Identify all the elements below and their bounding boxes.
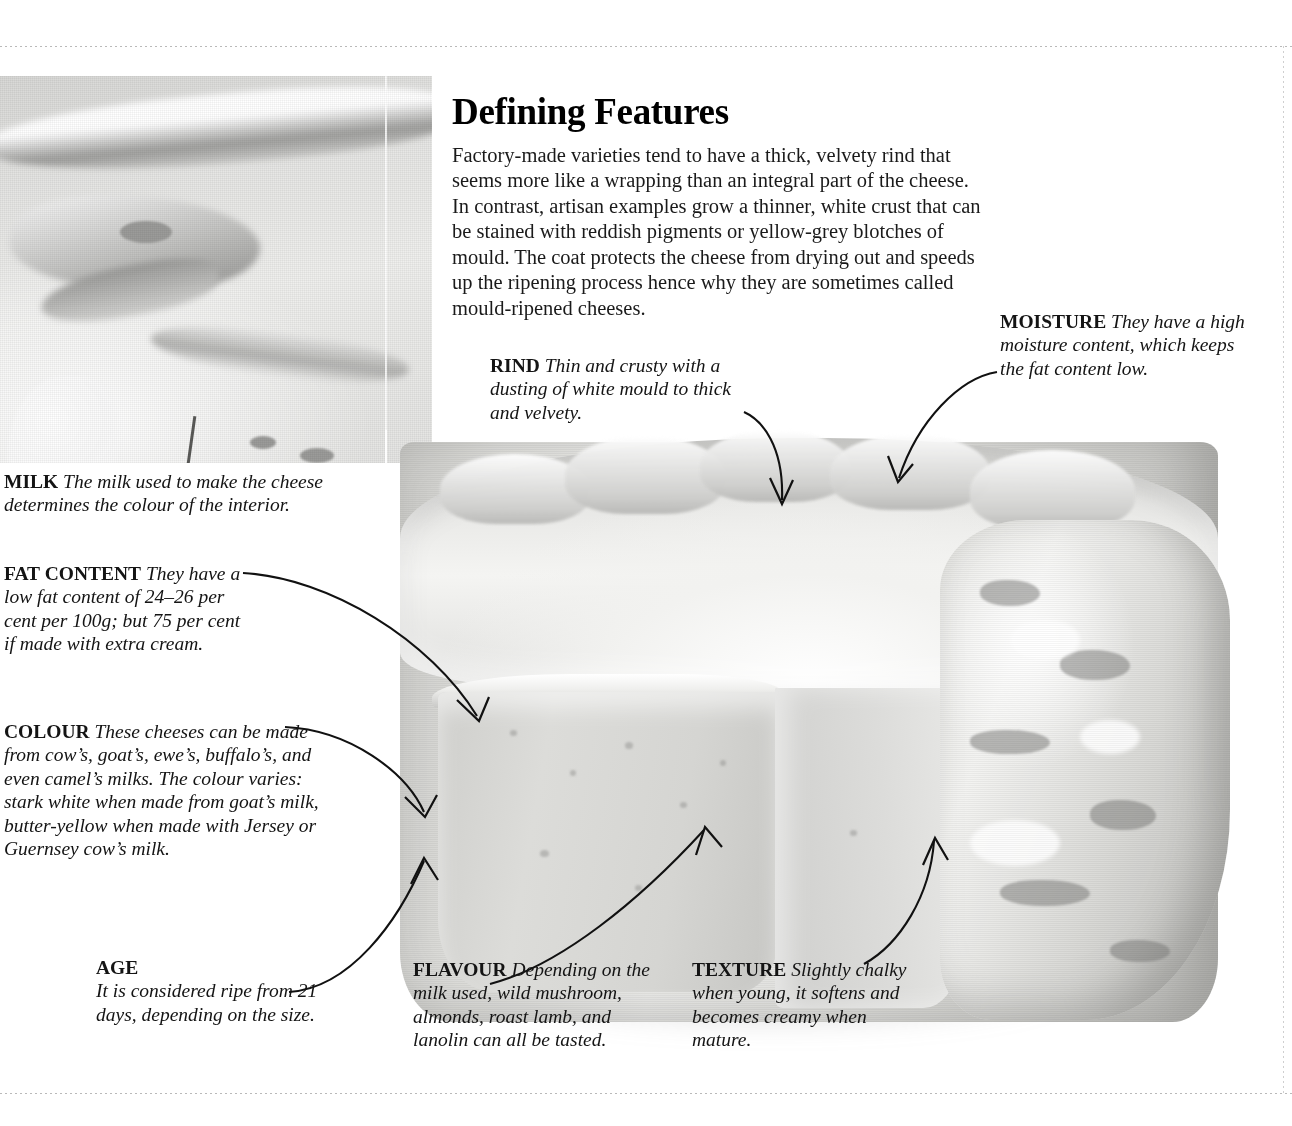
paste-eye — [850, 830, 857, 836]
callout-fat-content: FAT CONTENT They have a low fat content … — [4, 562, 254, 656]
paste-eye — [635, 885, 642, 891]
paste-eye — [720, 760, 726, 766]
callout-term: MILK — [4, 471, 58, 492]
page-rule-bottom — [0, 1093, 1292, 1094]
paste-eye — [625, 742, 633, 749]
callout-term: MOISTURE — [1000, 311, 1106, 332]
callout-term: FAT CONTENT — [4, 563, 141, 584]
cheese-paste-left-face — [438, 692, 778, 992]
photo-grain — [0, 76, 432, 463]
callout-term: AGE — [96, 956, 336, 979]
article-page: Defining Features Factory-made varieties… — [0, 0, 1292, 1126]
callout-flavour: FLAVOUR Depending on the milk used, wild… — [413, 958, 663, 1052]
rim-wave — [700, 430, 850, 502]
callout-term: TEXTURE — [692, 959, 786, 980]
page-rule-top — [0, 46, 1292, 47]
page-rule-right — [1283, 46, 1284, 1093]
paste-eye — [680, 802, 687, 808]
paste-eye — [510, 730, 517, 736]
cheese-outer-crust — [940, 520, 1230, 1020]
callout-text: It is considered ripe from 21 days, depe… — [96, 980, 317, 1024]
intro-paragraph: Factory-made varieties tend to have a th… — [452, 143, 986, 322]
paste-eye — [570, 770, 576, 776]
rim-wave — [830, 434, 990, 510]
callout-term: RIND — [490, 355, 540, 376]
callout-texture: TEXTURE Slightly chalky when young, it s… — [692, 958, 912, 1052]
callout-rind: RIND Thin and crusty with a dusting of w… — [490, 354, 750, 424]
paste-eye — [540, 850, 549, 857]
page-title: Defining Features — [452, 93, 729, 132]
callout-moisture: MOISTURE They have a high moisture conte… — [1000, 310, 1250, 380]
callout-age: AGEIt is considered ripe from 21 days, d… — [96, 956, 336, 1026]
rim-wave — [970, 450, 1135, 530]
callout-colour: COLOUR These cheeses can be made from co… — [4, 720, 334, 860]
callout-milk: MILK The milk used to make the cheese de… — [4, 470, 404, 517]
callout-term: FLAVOUR — [413, 959, 507, 980]
callout-term: COLOUR — [4, 721, 90, 742]
rind-closeup-photo — [0, 76, 432, 463]
